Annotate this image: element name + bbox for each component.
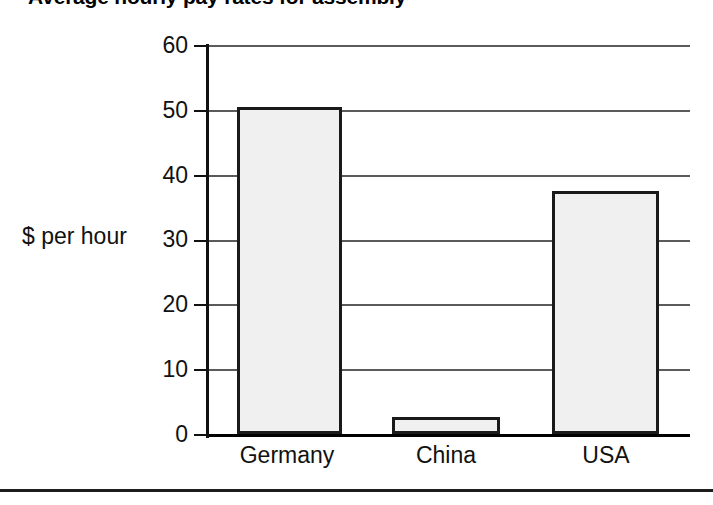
bar-china[interactable] <box>392 417 500 435</box>
gridline-axis-zero <box>206 434 690 437</box>
plot-area <box>206 45 690 435</box>
y-tick-labels: 60 50 40 30 20 10 0 <box>126 0 188 505</box>
y-tick-mark-20 <box>194 304 206 306</box>
y-tick-label-50: 50 <box>128 99 188 122</box>
y-axis-line <box>206 44 209 438</box>
bar-chart-figure: Average hourly pay rates for assembly 60… <box>0 0 713 505</box>
y-tick-label-30: 30 <box>128 228 188 251</box>
y-tick-mark-50 <box>194 110 206 112</box>
y-tick-mark-60 <box>194 45 206 47</box>
y-tick-mark-10 <box>194 369 206 371</box>
y-tick-label-60: 60 <box>128 34 188 57</box>
bar-germany[interactable] <box>237 107 342 434</box>
y-tick-label-40: 40 <box>128 164 188 187</box>
bottom-divider-rule <box>0 489 713 492</box>
y-tick-label-10: 10 <box>128 358 188 381</box>
y-tick-mark-0 <box>194 434 206 436</box>
x-category-label-usa: USA <box>496 442 713 468</box>
bar-usa[interactable] <box>552 191 659 434</box>
y-tick-label-20: 20 <box>128 293 188 316</box>
y-tick-mark-30 <box>194 240 206 242</box>
gridline-60 <box>206 45 690 47</box>
y-axis-title: $ per hour <box>22 225 127 248</box>
y-tick-mark-40 <box>194 175 206 177</box>
